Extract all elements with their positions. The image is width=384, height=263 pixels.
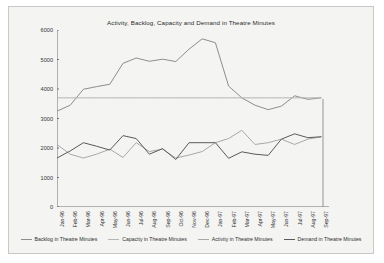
series-line xyxy=(57,130,321,158)
x-axis-tick-label: Jun-97 xyxy=(283,211,289,227)
x-axis-tick-label: Feb-97 xyxy=(231,211,237,227)
legend-item[interactable]: Demand in Theatre Minutes xyxy=(284,236,362,242)
x-axis-tick-label: Nov-96 xyxy=(191,211,197,228)
series-line xyxy=(57,134,321,160)
series-line xyxy=(57,39,321,111)
chart-legend: Backlog in Theatre MinutesCapacity in Th… xyxy=(9,236,373,242)
legend-label: Activity in Theatre Minutes xyxy=(212,236,273,242)
legend-item[interactable]: Activity in Theatre Minutes xyxy=(198,236,273,242)
x-axis-tick-label: Dec-96 xyxy=(204,211,210,228)
legend-color-swatch xyxy=(108,239,119,240)
axis-lines xyxy=(57,30,329,207)
legend-label: Backlog in Theatre Minutes xyxy=(35,236,98,242)
x-axis-tick-label: Apr-96 xyxy=(99,211,105,227)
x-axis-tick-label: May-96 xyxy=(112,211,118,228)
y-axis-tick-label: 2000 xyxy=(41,145,53,151)
x-axis-tick-label: Mar-96 xyxy=(85,211,91,227)
x-axis-tick-label: May-97 xyxy=(270,211,276,228)
y-axis-tick-label: 6000 xyxy=(41,27,53,33)
x-axis-tick-label: Jul-97 xyxy=(297,211,303,225)
x-axis-tick-label: Sep-96 xyxy=(165,211,171,228)
series-lines xyxy=(57,39,321,160)
x-axis-tick-label: Apr-97 xyxy=(257,211,263,227)
y-axis-tick-label: 1000 xyxy=(41,175,53,181)
y-axis-tick-label: 4000 xyxy=(41,86,53,92)
x-axis-tick-label: Feb-96 xyxy=(72,211,78,227)
x-axis-tick-label: Jun-96 xyxy=(125,211,131,227)
x-axis-tick-label: Mar-97 xyxy=(244,211,250,227)
x-axis-tick-label: Jul-96 xyxy=(138,211,144,225)
x-axis-tick-label: Oct-96 xyxy=(178,211,184,227)
legend-color-swatch xyxy=(21,239,32,240)
y-axis-tick-label: 5000 xyxy=(41,57,53,63)
x-axis-tick-label: Jan-96 xyxy=(59,211,65,227)
x-axis-tick-label: Aug-96 xyxy=(151,211,157,228)
plot-area: 0100020003000400050006000 Jan-96Feb-96Ma… xyxy=(57,30,329,207)
legend-color-swatch xyxy=(284,239,295,240)
legend-label: Demand in Theatre Minutes xyxy=(298,236,362,242)
chart-figure: Activity, Backlog, Capacity and Demand i… xyxy=(8,6,374,254)
y-axis-tick-label: 3000 xyxy=(41,116,53,122)
legend-label: Capacity in Theatre Minutes xyxy=(122,236,187,242)
legend-color-swatch xyxy=(198,239,209,240)
x-axis-tick-label: Aug-97 xyxy=(310,211,316,228)
plot-svg xyxy=(57,30,329,207)
chart-title: Activity, Backlog, Capacity and Demand i… xyxy=(9,19,373,26)
legend-item[interactable]: Backlog in Theatre Minutes xyxy=(21,236,98,242)
x-axis-tick-label: Sep-97 xyxy=(323,211,329,228)
y-axis-tick-label: 0 xyxy=(50,204,53,210)
x-axis-tick-label: Jan-97 xyxy=(217,211,223,227)
legend-item[interactable]: Capacity in Theatre Minutes xyxy=(108,236,187,242)
